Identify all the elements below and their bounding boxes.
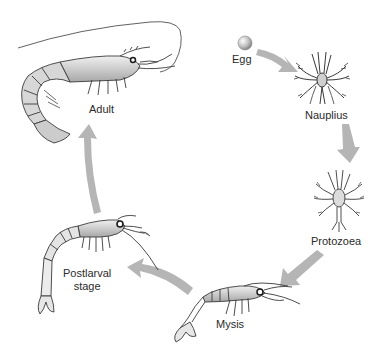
stage-label-nauplius: Nauplius [305,109,348,122]
stage-label-postlarval-line1: Postlarval [63,267,111,280]
stage-label-protozoea: Protozoea [311,235,361,248]
stage-label-postlarval: Postlarval stage [63,267,111,293]
arrow-nauplius-to-protozoea [337,124,360,163]
arrow-postlarval-to-adult [78,124,101,214]
stage-label-egg: Egg [232,53,252,66]
shrimp-life-cycle-diagram: Egg Nauplius Protozoea Mysis Postlarval … [0,0,377,348]
adult-illustration [18,22,181,143]
diagram-artwork [0,0,377,348]
mysis-illustration [175,283,300,342]
nauplius-illustration [294,52,350,104]
stage-label-adult: Adult [89,103,114,116]
stage-label-mysis: Mysis [216,318,244,331]
protozoea-illustration [314,170,364,232]
stage-label-postlarval-line2: stage [63,280,111,293]
arrow-egg-to-nauplius [256,49,298,72]
arrow-mysis-to-postlarval [127,258,193,295]
egg-illustration [238,36,252,50]
arrow-protozoea-to-mysis [280,250,324,286]
